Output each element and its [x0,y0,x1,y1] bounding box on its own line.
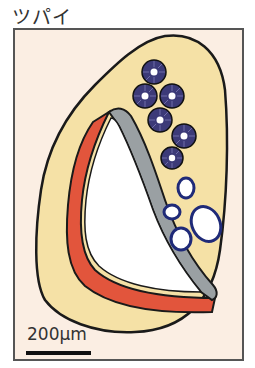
scale-bar [26,351,91,355]
diagram-title: ツパイ [12,2,72,29]
scale-label: 200μm [27,324,87,344]
tissue-illustration [15,30,244,361]
diagram-panel: 200μm [13,28,244,361]
